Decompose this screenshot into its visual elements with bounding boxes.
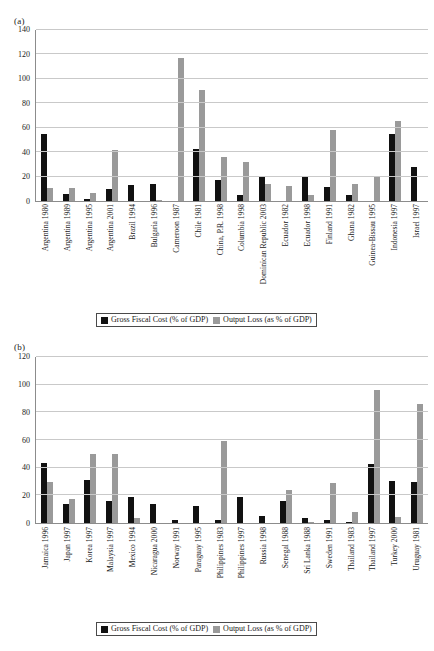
gridline (36, 53, 428, 54)
bar-output-loss (47, 482, 53, 524)
legend-swatch-output-icon (213, 626, 220, 633)
x-axis-tick-label: Dominican Republic 2003 (260, 204, 268, 284)
x-axis-tick-label: Philippines 1983 (217, 527, 225, 578)
x-axis-tick-label: Argentina 1995 (86, 204, 94, 251)
x-axis-tick-label: China, P.R. 1998 (217, 204, 225, 255)
x-axis-label-cell: Argentina 2001 (100, 204, 122, 296)
legend-swatch-output-icon (213, 317, 220, 324)
x-axis-label-cell: Ghana 1982 (341, 204, 363, 296)
legend-swatch-fiscal-icon (101, 317, 108, 324)
x-axis-label-cell: Sweden 1991 (319, 527, 341, 619)
bar-output-loss (47, 188, 53, 201)
x-axis-label-cell: Senegal 1988 (275, 527, 297, 619)
bar-output-loss (286, 186, 292, 201)
x-axis-tick-label: Philippines 1997 (239, 527, 247, 578)
bar-output-loss (352, 512, 358, 523)
y-axis-tick-label: 100 (18, 75, 30, 83)
x-axis-label-cell: Argentina 1989 (57, 204, 79, 296)
x-axis-label-cell: Russia 1998 (253, 527, 275, 619)
x-axis-label-cell: Chile 1981 (188, 204, 210, 296)
y-axis-tick-label: 40 (22, 149, 30, 157)
x-axis-label-cell: Israel 1997 (406, 204, 428, 296)
bar-fiscal-cost (237, 497, 243, 523)
legend-label-fiscal: Gross Fiscal Cost (% of GDP) (111, 316, 208, 324)
bar-group (145, 357, 167, 523)
legend-b: Gross Fiscal Cost (% of GDP) Output Loss… (96, 622, 317, 636)
y-axis-tick-label: 100 (18, 381, 30, 389)
x-axis-label-cell: Korea 1997 (79, 527, 101, 619)
x-axis-label-cell: Guinea-Bissau 1995 (362, 204, 384, 296)
bar-group (363, 357, 385, 523)
bar-output-loss (417, 404, 423, 523)
bar-fiscal-cost (259, 516, 265, 523)
bar-group (254, 357, 276, 523)
x-axis-tick-label: Malaysia 1997 (108, 527, 116, 572)
bar-output-loss (221, 441, 227, 523)
x-axis-tick-label: Ecuador 1982 (282, 204, 290, 246)
gridline (36, 494, 428, 495)
gridline (36, 439, 428, 440)
bar-output-loss (265, 184, 271, 201)
bar-fiscal-cost (193, 506, 199, 523)
y-axis-tick-label: 60 (22, 124, 30, 132)
bar-output-loss (243, 162, 249, 201)
x-axis-tick-label: Korea 1997 (86, 527, 94, 563)
legend-a: Gross Fiscal Cost (% of GDP) Output Loss… (96, 313, 317, 327)
bar-output-loss (90, 193, 96, 201)
x-axis-tick-label: Sweden 1991 (326, 527, 334, 568)
x-axis-tick-label: Ghana 1982 (348, 204, 356, 241)
bar-group (123, 357, 145, 523)
x-axis-label-cell: Nicaragua 2000 (144, 527, 166, 619)
x-axis-tick-label: Japan 1997 (64, 527, 72, 561)
bar-group (188, 357, 210, 523)
y-axis-tick-label: 40 (22, 464, 30, 472)
legend-item-output-b: Output Loss (as % of GDP) (213, 625, 312, 633)
chart-panel-b: (b) 020406080100120 Jamaica 1996Japan 19… (0, 330, 434, 651)
legend-swatch-fiscal-icon (101, 626, 108, 633)
y-axis-labels-b: 020406080100120 (0, 357, 34, 524)
bar-group (385, 357, 407, 523)
x-axis-tick-label: Brazil 1994 (129, 204, 137, 240)
x-axis-label-cell: Bulgaria 1996 (144, 204, 166, 296)
bar-series-b (36, 357, 428, 523)
x-axis-label-cell: Indonesia 1997 (384, 204, 406, 296)
y-axis-tick-label: 120 (18, 353, 30, 361)
panel-b-label: (b) (14, 342, 25, 352)
x-axis-label-cell: Turkey 2000 (384, 527, 406, 619)
y-axis-tick-label: 80 (22, 100, 30, 108)
bar-output-loss (395, 517, 401, 523)
bar-output-loss (90, 454, 96, 523)
gridline (36, 467, 428, 468)
x-axis-tick-label: Argentina 1989 (64, 204, 72, 251)
x-axis-label-cell: Argentina 1980 (35, 204, 57, 296)
bar-output-loss (330, 130, 336, 201)
figure-page: (a) 020406080100120140 Argentina 1980Arg… (0, 0, 434, 651)
bar-fiscal-cost (411, 167, 417, 201)
legend-label-output: Output Loss (as % of GDP) (223, 316, 312, 324)
x-axis-label-cell: Dominican Republic 2003 (253, 204, 275, 296)
x-axis-label-cell: China, P.R. 1998 (210, 204, 232, 296)
bar-output-loss (330, 483, 336, 523)
y-axis-tick-label: 60 (22, 437, 30, 445)
bar-group (276, 357, 298, 523)
x-axis-label-cell: Paraguay 1995 (188, 527, 210, 619)
x-axis-label-cell: Columbia 1998 (231, 204, 253, 296)
bar-output-loss (134, 518, 140, 523)
legend-label-fiscal: Gross Fiscal Cost (% of GDP) (111, 625, 208, 633)
bar-output-loss (69, 188, 75, 201)
x-axis-label-cell: Thailand 1983 (341, 527, 363, 619)
x-axis-label-cell: Philippines 1997 (231, 527, 253, 619)
y-axis-tick-label: 0 (26, 520, 30, 528)
x-axis-label-cell: Jamaica 1996 (35, 527, 57, 619)
bar-group (297, 357, 319, 523)
x-axis-tick-label: Columbia 1998 (239, 204, 247, 251)
bar-group (167, 357, 189, 523)
bar-group (36, 357, 58, 523)
x-axis-tick-label: Jamaica 1996 (42, 527, 50, 569)
y-axis-labels-a: 020406080100120140 (0, 30, 34, 202)
x-axis-tick-label: Guinea-Bissau 1995 (370, 204, 378, 266)
x-axis-tick-label: Sri Lanka 1988 (304, 527, 312, 574)
x-axis-tick-label: Chile 1981 (195, 204, 203, 238)
gridline (36, 176, 428, 177)
x-axis-tick-label: Norway 1991 (173, 527, 181, 569)
